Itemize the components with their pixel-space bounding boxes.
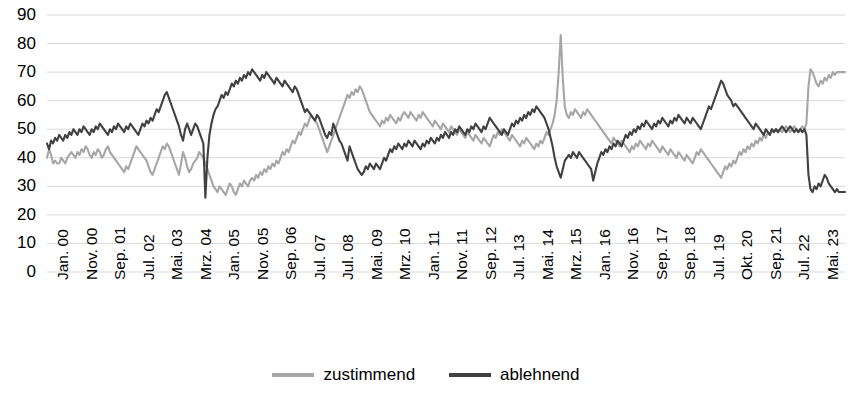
- x-axis-tick-label: Sep. 01: [112, 227, 128, 280]
- x-axis-tick-label: Mai. 23: [825, 229, 841, 280]
- y-axis-tick-label: 50: [2, 120, 36, 137]
- x-axis-tick-label: Nov. 16: [625, 228, 641, 280]
- x-axis-tick-label: Sep. 12: [483, 227, 499, 280]
- y-axis-tick-label: 90: [2, 6, 36, 23]
- y-axis-tick-label: 0: [2, 263, 36, 280]
- x-axis-tick-label: Jul. 13: [511, 234, 527, 280]
- y-axis-tick-label: 60: [2, 92, 36, 109]
- legend-label: zustimmend: [323, 366, 415, 383]
- series-line-zustimmend: [47, 35, 845, 195]
- x-axis-tick-label: Mrz. 15: [568, 228, 584, 280]
- x-axis-tick-label: Mai. 14: [540, 229, 556, 280]
- legend-item[interactable]: zustimmend: [272, 366, 415, 383]
- legend-item[interactable]: ablehnend: [449, 366, 579, 383]
- legend-color-swatch: [272, 373, 314, 377]
- y-axis-tick-label: 80: [2, 35, 36, 52]
- x-axis-tick-label: Jan. 05: [226, 229, 242, 280]
- y-axis-tick-label: 20: [2, 206, 36, 223]
- y-axis-tick-label: 30: [2, 177, 36, 194]
- x-axis-tick-label: Jan. 00: [55, 229, 71, 280]
- x-axis-tick-label: Jan. 11: [426, 230, 442, 280]
- x-axis-tick-label: Jul. 08: [340, 234, 356, 280]
- chart-legend: zustimmendablehnend: [0, 366, 852, 383]
- x-axis-tick-label: Nov. 11: [454, 229, 470, 280]
- x-axis-tick-label: Nov. 00: [84, 228, 100, 280]
- legend-label: ablehnend: [500, 366, 579, 383]
- x-axis-tick-label: Jul. 19: [711, 234, 727, 280]
- x-axis-tick-label: Jul. 02: [141, 234, 157, 280]
- y-axis-tick-label: 70: [2, 63, 36, 80]
- y-axis-tick-label: 40: [2, 149, 36, 166]
- x-axis-tick-label: Mrz. 04: [198, 228, 214, 280]
- y-axis-tick-label: 10: [2, 234, 36, 251]
- x-axis-tick-label: Mai. 09: [369, 229, 385, 280]
- series-line-ablehnend: [47, 69, 845, 198]
- x-axis-tick-label: Sep. 17: [654, 227, 670, 280]
- chart-container: 9080706050403020100 Jan. 00Nov. 00Sep. 0…: [0, 0, 852, 397]
- x-axis-tick-label: Okt. 20: [739, 230, 755, 280]
- legend-color-swatch: [449, 373, 491, 377]
- x-axis-tick-label: Sep. 21: [768, 227, 784, 280]
- x-axis-tick-label: Mai. 03: [169, 229, 185, 280]
- x-axis-tick-label: Sep. 06: [283, 227, 299, 280]
- x-axis-tick-label: Sep. 18: [682, 227, 698, 280]
- plot-area: [0, 0, 852, 397]
- x-axis-tick-label: Jul. 07: [312, 234, 328, 280]
- x-axis-tick-label: Nov. 05: [255, 228, 271, 280]
- x-axis-tick-label: Jan. 16: [597, 229, 613, 280]
- x-axis-tick-label: Mrz. 10: [397, 228, 413, 280]
- x-axis-tick-label: Jul. 22: [796, 234, 812, 280]
